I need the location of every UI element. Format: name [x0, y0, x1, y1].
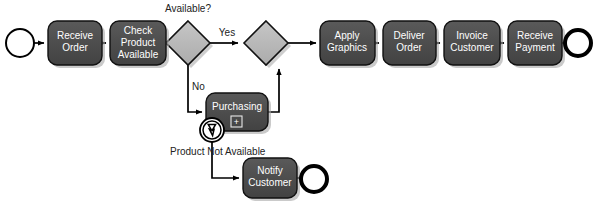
- task-receive-order[interactable]: Receive Order: [48, 21, 105, 68]
- flow-label-no: No: [192, 81, 205, 92]
- gateway-diamond: [166, 21, 210, 65]
- end-event-payment-received[interactable]: [565, 30, 591, 56]
- task-check-product-available[interactable]: Check Product Available: [110, 21, 169, 68]
- bpmn-process-diagram: Receive Order Check Product Available Ap…: [0, 0, 597, 206]
- task-invoice-customer[interactable]: Invoice Customer: [444, 21, 503, 68]
- task-box: [320, 21, 375, 65]
- task-box: [243, 158, 297, 198]
- gateway-merge[interactable]: [244, 21, 291, 68]
- gateway-layer: [166, 21, 291, 68]
- task-box: [48, 21, 102, 65]
- gateway-diamond: [244, 21, 288, 65]
- end-event-customer-notified[interactable]: [301, 166, 327, 192]
- gateway-product-available-decision[interactable]: [166, 21, 213, 68]
- task-box: [444, 21, 500, 65]
- gateway-label-available: Available?: [165, 3, 211, 14]
- flow-label-yes: Yes: [219, 27, 235, 38]
- task-deliver-order[interactable]: Deliver Order: [383, 21, 439, 68]
- sequence-flow-no-to-purchasing: [188, 65, 202, 112]
- task-box: [508, 21, 562, 65]
- start-event[interactable]: [6, 29, 34, 57]
- task-box: [383, 21, 436, 65]
- marker-plus-label: +: [234, 117, 239, 127]
- task-receive-payment[interactable]: Receive Payment: [508, 21, 565, 68]
- task-box: [110, 21, 166, 65]
- diagram-canvas: Receive Order Check Product Available Ap…: [0, 0, 597, 206]
- sequence-flow-error-to-notify-customer: [212, 142, 239, 178]
- task-apply-graphics[interactable]: Apply Graphics: [320, 21, 378, 68]
- error-boundary-event[interactable]: [200, 118, 224, 142]
- task-notify-customer[interactable]: Notify Customer: [243, 158, 300, 201]
- flow-label-product-not-available: Product Not Available: [170, 146, 266, 157]
